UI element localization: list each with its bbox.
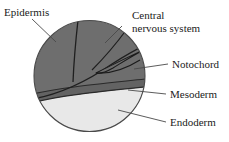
leader-line-epidermis bbox=[32, 19, 56, 42]
embryo-body bbox=[28, 16, 154, 140]
label-epidermis: Epidermis bbox=[4, 6, 49, 18]
embryo-cross-section-figure: Epidermis Central nervous system Notocho… bbox=[0, 0, 229, 142]
label-endoderm: Endoderm bbox=[170, 116, 216, 128]
label-cns-line2: nervous system bbox=[132, 22, 201, 34]
label-mesoderm: Mesoderm bbox=[170, 88, 217, 100]
label-notochord: Notochord bbox=[172, 58, 220, 70]
label-cns-line1: Central bbox=[132, 9, 164, 21]
diagram-canvas: Epidermis Central nervous system Notocho… bbox=[0, 0, 229, 142]
